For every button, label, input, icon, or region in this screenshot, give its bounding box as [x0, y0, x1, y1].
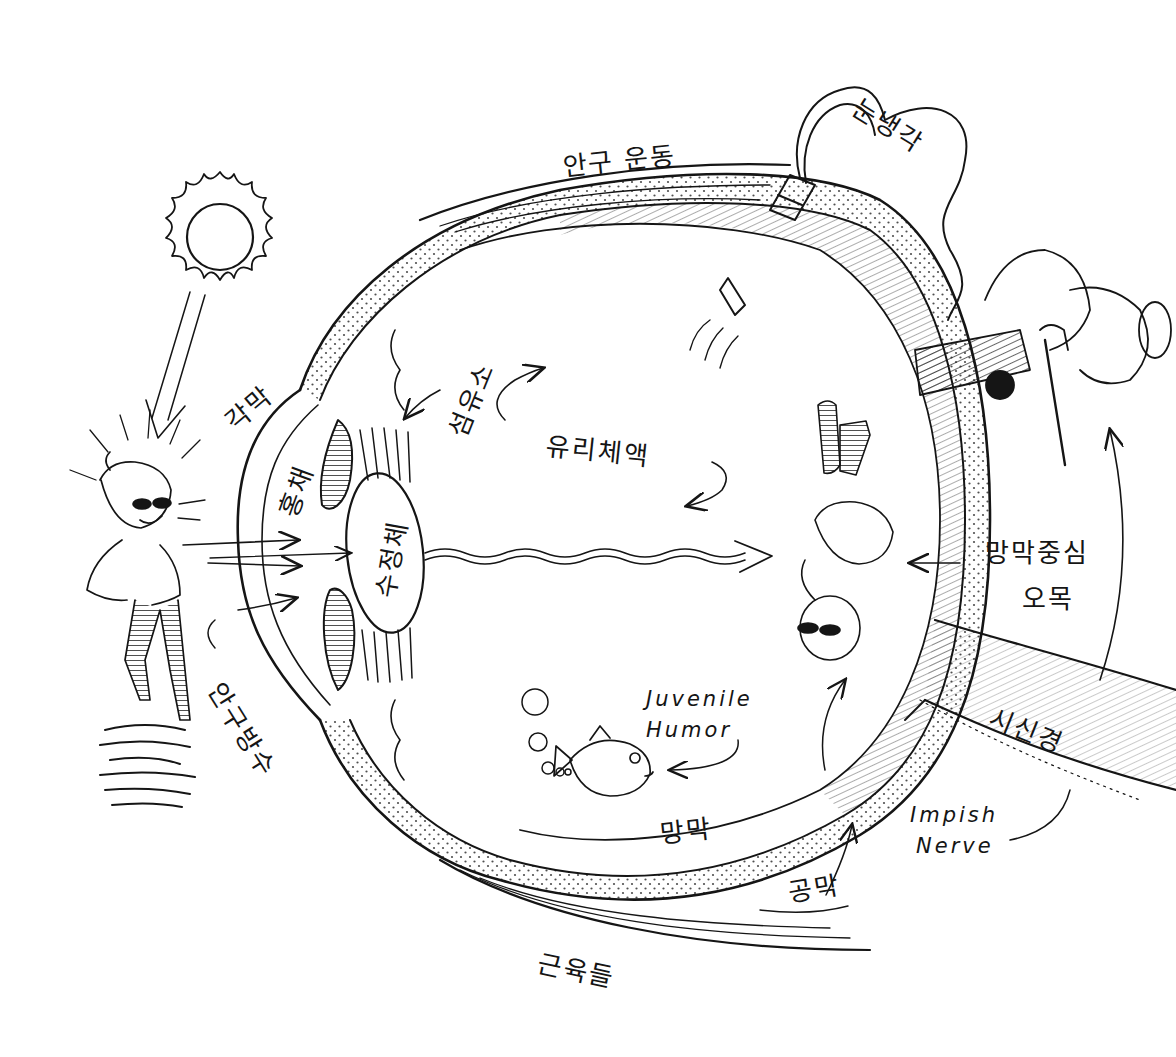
label-juvenile-line2: Humor — [646, 715, 753, 746]
label-fovea-line2: 오목 — [1022, 578, 1074, 615]
label-retina: 망막 — [658, 807, 714, 849]
label-impish-line1: Impish — [910, 800, 998, 831]
boy-with-sunglasses — [70, 410, 205, 720]
inverted-image-of-boy — [798, 401, 893, 660]
label-juvenile-humor: Juvenile Humor — [646, 684, 753, 746]
fish-icon — [554, 726, 653, 796]
label-juvenile-line1: Juvenile — [646, 684, 753, 715]
bubbles-icon — [522, 689, 571, 776]
iris-upper — [321, 420, 352, 509]
label-fovea-line1: 망막중심 — [985, 532, 1089, 569]
label-impish-nerve: Impish Nerve — [910, 800, 998, 862]
label-impish-line2: Nerve — [910, 831, 998, 862]
sun-icon — [166, 172, 272, 280]
shadow-scribble — [100, 725, 195, 807]
iris-lower — [324, 589, 354, 690]
